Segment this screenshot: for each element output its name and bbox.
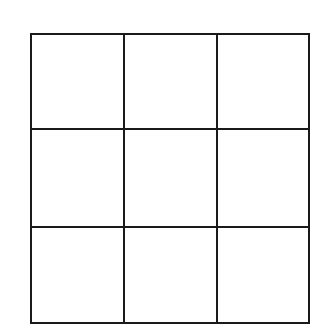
border-top [30,33,310,35]
border-right [308,33,310,324]
grid-line-vertical-2 [216,33,218,324]
cell-1-2[interactable] [219,131,308,226]
cell-2-2[interactable] [219,229,308,322]
border-left [30,33,32,324]
cell-1-1[interactable] [126,131,216,226]
cell-0-0[interactable] [32,35,123,128]
border-bottom [30,322,310,324]
cell-2-0[interactable] [32,229,123,322]
cell-0-1[interactable] [126,35,216,128]
cell-0-2[interactable] [219,35,308,128]
grid-line-vertical-1 [123,33,125,324]
cell-2-1[interactable] [126,229,216,322]
cell-1-0[interactable] [32,131,123,226]
grid-line-horizontal-2 [30,226,310,228]
grid-line-horizontal-1 [30,128,310,130]
tic-tac-toe-board [30,33,310,324]
